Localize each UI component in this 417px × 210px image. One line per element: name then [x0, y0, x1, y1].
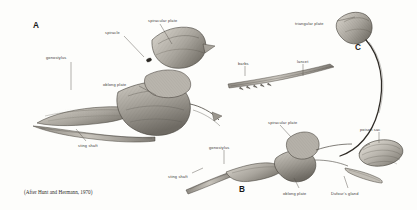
label-a-spiracle: spiracle: [105, 31, 120, 35]
label-a-gonostylus: gonostylus: [46, 56, 66, 60]
label-a-sting-shaft: sting shaft: [78, 144, 98, 148]
source-credit: (After Hunt and Hermann, 1970): [24, 190, 92, 195]
label-a-oblong-plate: oblong plate: [103, 83, 126, 87]
label-c-lancet: lancet: [297, 60, 308, 64]
panel-letter-c: C: [355, 44, 361, 52]
label-b-gonostylus: gonostylus: [209, 146, 229, 150]
figure-plate: ABC gonostylusspiraclespiracular plateob…: [0, 0, 417, 210]
leader-a-spiracle: [124, 36, 144, 57]
label-b-sting-shaft: sting shaft: [168, 175, 188, 179]
panel-letter-a: A: [33, 22, 39, 30]
label-b-dufours-gland: Dufour's gland: [331, 192, 359, 196]
label-c-triangular-plate: triangular plate: [295, 22, 324, 26]
panel-a-drawing: [33, 27, 222, 142]
label-b-oblong-plate: oblong plate: [283, 192, 306, 196]
leader-b-sting-shaft: [192, 168, 203, 173]
panel-b-drawing: [186, 132, 405, 194]
panel-letter-b: B: [239, 186, 245, 194]
illustration-artwork: [0, 0, 417, 210]
label-b-poison-sac: poison sac: [360, 128, 380, 132]
label-b-spiracular-plate: spiracular plate: [268, 121, 297, 125]
label-a-spiracular-plate: spiracular plate: [148, 19, 177, 23]
leader-b-dufours-gland: [344, 176, 348, 188]
leader-b-spiracular-plate: [280, 125, 291, 137]
label-c-barbs: barbs: [238, 62, 249, 66]
